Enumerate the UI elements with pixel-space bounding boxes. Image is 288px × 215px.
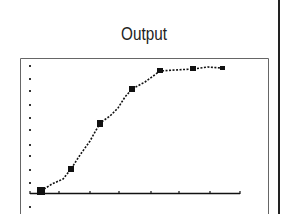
data-point bbox=[190, 66, 196, 71]
chart-canvas bbox=[0, 0, 288, 214]
data-point bbox=[97, 120, 103, 127]
data-point bbox=[129, 86, 135, 92]
y-axis-ticks bbox=[29, 65, 31, 208]
data-point bbox=[157, 68, 163, 73]
plot-frame bbox=[21, 59, 269, 215]
data-point bbox=[220, 66, 225, 70]
x-axis bbox=[30, 191, 240, 194]
data-point bbox=[37, 187, 45, 195]
series-line bbox=[41, 67, 222, 191]
data-point bbox=[68, 166, 74, 172]
